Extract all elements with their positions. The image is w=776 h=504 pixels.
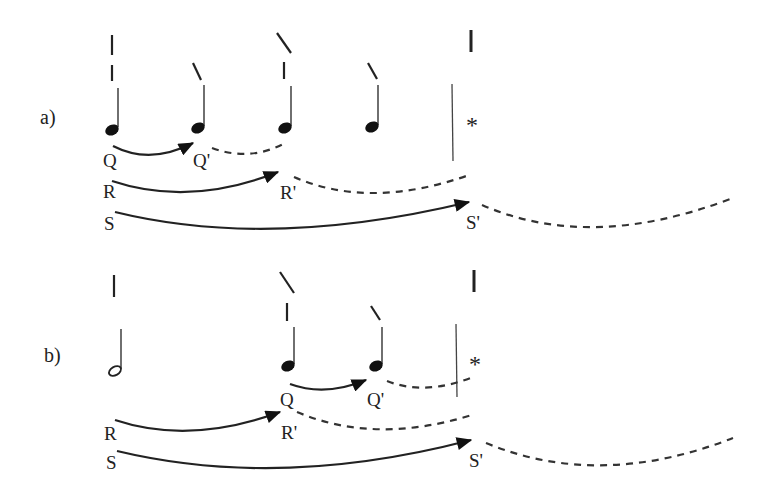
rhythm-diagram: a) * Q: [0, 0, 776, 504]
label-s: S: [106, 452, 117, 473]
barline: [452, 84, 453, 161]
arc-q-to-q-prime-arrow-icon: [113, 143, 193, 155]
slash-accent-mark-icon: [193, 63, 201, 80]
star-marker: *: [466, 112, 478, 138]
dashed-continuation-r: [297, 412, 472, 429]
slash-accent-mark-icon: [277, 33, 291, 53]
label-r: R: [103, 181, 116, 202]
slash-accent-mark-icon: [280, 272, 294, 293]
panel-b-label: b): [44, 344, 61, 367]
dashed-continuation-s: [486, 438, 733, 465]
label-r-prime: R': [281, 422, 297, 443]
label-q-prime: Q': [367, 389, 384, 410]
label-r: R: [104, 423, 117, 444]
dashed-continuation-s: [482, 199, 730, 227]
label-q-prime: Q': [193, 150, 210, 171]
arc-r-to-r-prime-arrow-icon: [115, 412, 280, 431]
label-s-prime: S': [469, 450, 483, 471]
panel-b: b) * Q Q' R R': [44, 270, 733, 473]
label-q: Q: [103, 150, 117, 171]
quarter-note-2: [189, 63, 206, 136]
panel-a-label: a): [40, 106, 56, 129]
slash-accent-mark-icon: [371, 306, 380, 320]
dashed-continuation-q: [212, 143, 285, 154]
barline: [456, 324, 457, 397]
arc-q-to-q-prime-arrow-icon: [290, 380, 366, 390]
quarter-note-q: [279, 272, 296, 374]
half-note: [107, 275, 122, 378]
half-note-head-icon: [107, 364, 122, 378]
arc-s-to-s-prime-arrow-icon: [115, 202, 469, 229]
dashed-continuation-r: [294, 175, 469, 193]
label-s: S: [104, 213, 115, 234]
label-r-prime: R': [280, 182, 296, 203]
panel-a: a) * Q: [40, 30, 730, 234]
arc-s-to-s-prime-arrow-icon: [117, 440, 471, 468]
slash-accent-mark-icon: [368, 63, 377, 79]
quarter-note-1: [103, 35, 120, 138]
dashed-continuation-q: [387, 377, 473, 388]
label-s-prime: S': [466, 212, 480, 233]
quarter-note-q-prime: [367, 306, 384, 374]
arc-r-to-r-prime-arrow-icon: [112, 172, 278, 192]
label-q: Q: [280, 389, 294, 410]
quarter-note-4: [363, 63, 380, 135]
quarter-note-3: [276, 33, 293, 136]
star-marker: *: [469, 351, 481, 377]
